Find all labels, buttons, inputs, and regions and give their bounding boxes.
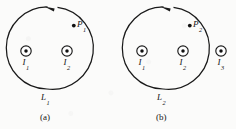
loop-label-a: L1 xyxy=(41,93,49,102)
wire-label-b-1: I1 xyxy=(139,58,145,67)
panel-b-group xyxy=(122,7,226,90)
field-point-label-a: P1 xyxy=(77,20,86,29)
wire-label-a-2: I2 xyxy=(64,58,70,67)
wire-symbol-b-2 xyxy=(178,46,188,56)
current-direction-arrow-b xyxy=(160,7,170,12)
panel-caption-b: (b) xyxy=(156,113,167,122)
wire-symbol-a-1 xyxy=(21,46,31,56)
wire-symbol-a-2 xyxy=(62,46,72,56)
field-point-marker-a xyxy=(72,24,76,28)
physics-figure: P1 I1 I2 L1 (a) P2 I1 I2 I3 L2 (b) xyxy=(0,0,236,129)
panel-caption-a: (a) xyxy=(40,113,50,122)
current-direction-arrow-a xyxy=(44,7,54,12)
field-point-marker-b xyxy=(188,24,192,28)
wire-label-b-3: I3 xyxy=(218,58,224,67)
wire-label-a-1: I1 xyxy=(23,58,29,67)
wire-symbol-b-1 xyxy=(137,46,147,56)
loop-label-b: L2 xyxy=(157,93,165,102)
field-point-label-b: P2 xyxy=(193,20,202,29)
wire-label-b-2: I2 xyxy=(180,58,186,67)
wire-symbol-b-3 xyxy=(216,46,226,56)
